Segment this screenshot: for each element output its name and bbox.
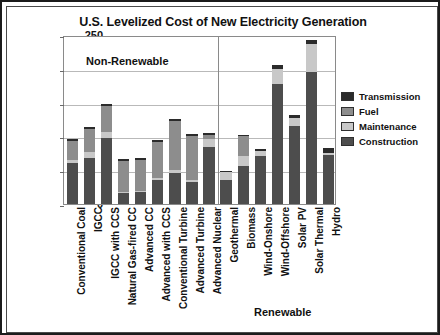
x-axis-tick-label: Geothermal bbox=[229, 207, 240, 263]
bar-segment-maintenance bbox=[101, 132, 112, 139]
x-axis-tick-label: Wind-Onshore bbox=[263, 207, 274, 276]
x-axis-tick-label: Natural Gas-fired CC bbox=[127, 207, 138, 305]
y-axis-tick-mark bbox=[60, 172, 64, 173]
bar bbox=[169, 119, 180, 204]
bar bbox=[220, 171, 231, 204]
bar bbox=[289, 115, 300, 204]
x-axis-tick-label: Solar Thermal bbox=[314, 207, 325, 274]
bar bbox=[135, 158, 146, 204]
gridline bbox=[64, 71, 335, 72]
legend-swatch bbox=[341, 107, 354, 116]
bar-segment-construction bbox=[203, 147, 214, 204]
bar-segment-construction bbox=[67, 163, 78, 204]
bar-segment-fuel bbox=[169, 121, 180, 170]
x-axis-labels: Conventional CoalIGCCIGCC with CCSNatura… bbox=[63, 207, 336, 315]
bar-segment-construction bbox=[220, 180, 231, 204]
x-axis-tick-label: Advanced Turbine bbox=[195, 207, 206, 294]
x-axis-tick-label: IGCC bbox=[93, 207, 104, 232]
y-axis-tick-mark bbox=[60, 71, 64, 72]
bar-segment-construction bbox=[272, 84, 283, 204]
legend-item: Fuel bbox=[341, 106, 437, 117]
bar bbox=[67, 139, 78, 204]
bar bbox=[118, 159, 129, 204]
x-axis-tick-label: Conventional Turbine bbox=[178, 207, 189, 309]
bar-segment-fuel bbox=[101, 106, 112, 132]
bar bbox=[101, 104, 112, 204]
chart-legend: TransmissionFuelMaintenanceConstruction bbox=[341, 91, 437, 151]
bar-segment-construction bbox=[118, 193, 129, 204]
group-divider bbox=[218, 37, 219, 204]
bar bbox=[238, 135, 249, 204]
y-axis-tick-mark bbox=[60, 138, 64, 139]
bar-segment-fuel bbox=[67, 141, 78, 160]
x-axis-tick-label: Solar PV bbox=[297, 207, 308, 248]
bar bbox=[84, 127, 95, 204]
bar-segment-construction bbox=[101, 138, 112, 204]
legend-label: Construction bbox=[359, 136, 418, 147]
legend-label: Maintenance bbox=[359, 121, 417, 132]
bar-segment-fuel bbox=[118, 161, 129, 191]
bar-segment-maintenance bbox=[203, 139, 214, 147]
bar bbox=[152, 140, 163, 204]
plot-area: Non-Renewable bbox=[63, 36, 336, 205]
bar-segment-construction bbox=[135, 192, 146, 204]
bar bbox=[186, 134, 197, 204]
bar bbox=[272, 65, 283, 204]
legend-item: Construction bbox=[341, 136, 437, 147]
bar-segment-maintenance bbox=[289, 118, 300, 126]
bar bbox=[306, 40, 317, 204]
x-axis-tick-label: Advanced CC bbox=[144, 207, 155, 272]
bar-segment-construction bbox=[84, 158, 95, 204]
bar-segment-construction bbox=[186, 182, 197, 204]
bar-segment-construction bbox=[238, 166, 249, 204]
bar bbox=[323, 148, 334, 204]
x-axis-tick-label: IGCC with CCS bbox=[110, 207, 121, 279]
legend-item: Transmission bbox=[341, 91, 437, 102]
chart-title: U.S. Levelized Cost of New Electricity G… bbox=[7, 15, 439, 29]
bar-segment-construction bbox=[289, 126, 300, 204]
x-axis-tick-label: Wind-Offshore bbox=[280, 207, 291, 276]
y-axis-tick-mark bbox=[60, 37, 64, 38]
x-axis-tick-label: Biomass bbox=[246, 207, 257, 249]
bar-segment-maintenance bbox=[238, 156, 249, 166]
legend-label: Fuel bbox=[359, 106, 379, 117]
bar bbox=[203, 133, 214, 204]
legend-item: Maintenance bbox=[341, 121, 437, 132]
bar-segment-fuel bbox=[135, 160, 146, 190]
bar-segment-fuel bbox=[84, 129, 95, 152]
annotation-non-renewable: Non-Renewable bbox=[86, 55, 169, 67]
bar-segment-construction bbox=[255, 156, 266, 204]
x-axis-tick-label: Advanced Nuclear bbox=[212, 207, 223, 294]
bar-segment-construction bbox=[152, 180, 163, 204]
legend-swatch bbox=[341, 92, 354, 101]
y-axis-tick-mark bbox=[60, 105, 64, 106]
bar-segment-fuel bbox=[186, 136, 197, 180]
bar-segment-fuel bbox=[152, 142, 163, 178]
legend-label: Transmission bbox=[359, 91, 420, 102]
annotation-renewable: Renewable bbox=[254, 306, 311, 318]
bar-segment-maintenance bbox=[272, 69, 283, 85]
bar bbox=[255, 149, 266, 204]
bar-segment-construction bbox=[169, 173, 180, 204]
bar-segment-maintenance bbox=[220, 172, 231, 181]
bar-segment-maintenance bbox=[306, 44, 317, 72]
bar-segment-construction bbox=[323, 155, 334, 204]
legend-swatch bbox=[341, 122, 354, 131]
bar-segment-construction bbox=[306, 72, 317, 204]
x-axis-tick-label: Conventional Coal bbox=[76, 207, 87, 295]
chart-inner-border: U.S. Levelized Cost of New Electricity G… bbox=[6, 6, 438, 333]
legend-swatch bbox=[341, 137, 354, 146]
x-axis-tick-label: Hydro bbox=[331, 207, 342, 236]
chart-figure-frame: U.S. Levelized Cost of New Electricity G… bbox=[0, 0, 440, 335]
x-axis-tick-label: Advanced with CCS bbox=[161, 207, 172, 301]
bar-segment-fuel bbox=[238, 136, 249, 156]
